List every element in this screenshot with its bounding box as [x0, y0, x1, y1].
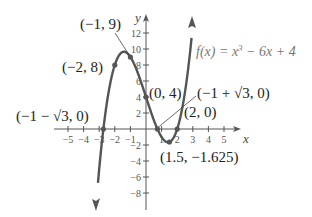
- y-tick-label: −6: [130, 172, 141, 183]
- point-label: (−1 − √3, 0): [16, 108, 89, 125]
- x-axis-label: x: [242, 131, 249, 146]
- data-point: [112, 62, 117, 67]
- y-tick-label: −4: [130, 156, 141, 167]
- y-tick-label: 12: [131, 28, 141, 39]
- data-point: [101, 126, 106, 131]
- curve-arrow-down-icon: [92, 198, 100, 211]
- x-tick-label: 4: [206, 134, 211, 145]
- y-tick-label: 10: [131, 44, 141, 55]
- data-point: [128, 54, 133, 59]
- point-label: (1.5, −1.625): [160, 149, 238, 166]
- curve-arrow-up-icon: [188, 16, 196, 28]
- x-tick-label: −2: [109, 134, 120, 145]
- point-label: (−1, 9): [80, 16, 121, 33]
- x-tick-label: −4: [78, 134, 89, 145]
- y-tick-label: 4: [136, 92, 141, 103]
- point-label: (−1 + √3, 0): [197, 85, 270, 102]
- data-point: [155, 126, 160, 131]
- y-tick-label: −8: [130, 188, 141, 199]
- data-point: [175, 126, 180, 131]
- point-label: (2, 0): [184, 104, 217, 121]
- point-label: (−2, 8): [62, 59, 103, 76]
- x-tick-label: 3: [190, 134, 195, 145]
- y-tick-label: −2: [130, 140, 141, 151]
- x-tick-label: 5: [222, 134, 227, 145]
- function-graph: xy−5−4−3−2−11234512108642−2−4−6−8(−1, 9)…: [0, 0, 312, 217]
- y-tick-label: 2: [136, 108, 141, 119]
- plot-canvas: xy−5−4−3−2−11234512108642−2−4−6−8(−1, 9)…: [0, 0, 312, 217]
- function-label: f(x) = x3 − 6x + 4: [196, 43, 296, 60]
- data-point: [143, 94, 148, 99]
- data-point: [167, 139, 172, 144]
- x-tick-label: −5: [63, 134, 74, 145]
- point-label: (0, 4): [149, 85, 182, 102]
- leader-line-max: [115, 33, 130, 57]
- y-axis-label: y: [133, 10, 141, 25]
